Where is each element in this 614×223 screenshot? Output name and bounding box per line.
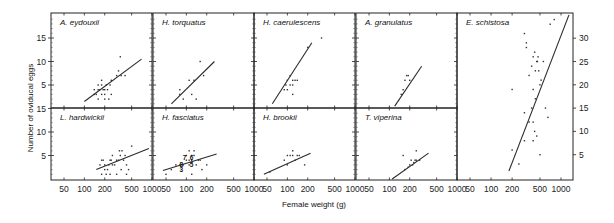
data-point — [107, 89, 108, 90]
y-axis-title: Number of oviducal eggs — [26, 64, 35, 153]
x-tick-label: 1000 — [552, 184, 571, 194]
data-point — [409, 164, 410, 165]
data-point — [196, 164, 197, 165]
data-point — [528, 75, 529, 76]
data-point — [101, 80, 102, 81]
data-point — [111, 94, 112, 95]
data-point — [292, 80, 293, 81]
panel-l-hardwickii: L. hardwickii501002005001000 — [51, 108, 162, 194]
x-tick-label: 100 — [280, 184, 294, 194]
data-point — [535, 70, 536, 71]
data-point — [104, 169, 105, 170]
regression-line — [395, 66, 422, 106]
point-count-annotation: 6 — [190, 154, 194, 161]
data-point — [289, 75, 290, 76]
regression-line — [96, 148, 149, 169]
x-tick-label: 100 — [77, 184, 91, 194]
data-point — [206, 164, 207, 165]
data-point — [103, 89, 104, 90]
y-tick-label-right: 5 — [579, 150, 584, 160]
data-point — [414, 160, 415, 161]
data-point — [116, 160, 117, 161]
point-count-annotation: 7 — [183, 154, 187, 161]
data-point — [201, 169, 202, 170]
data-point — [193, 80, 194, 81]
data-point — [404, 80, 405, 81]
data-point — [402, 155, 403, 156]
data-point — [108, 164, 109, 165]
data-point — [540, 79, 541, 80]
data-point — [292, 150, 293, 151]
data-point — [188, 80, 189, 81]
data-point — [116, 75, 117, 76]
left-y-axis: 5101551015 — [37, 33, 51, 161]
data-point — [526, 42, 527, 43]
data-point — [294, 80, 295, 81]
data-point — [175, 164, 176, 165]
data-point — [532, 121, 533, 122]
data-point — [97, 84, 98, 85]
data-point — [538, 70, 539, 71]
data-point — [118, 160, 119, 161]
x-tick-label: 50 — [364, 184, 374, 194]
data-point — [304, 164, 305, 165]
data-point — [109, 174, 110, 175]
data-point — [549, 24, 550, 25]
data-point — [199, 61, 200, 62]
data-point — [203, 75, 204, 76]
panels-group: A. eydouxiiH. torquatusH. caerulescensA.… — [51, 13, 573, 194]
data-point — [191, 174, 192, 175]
data-point — [539, 154, 540, 155]
panel-h-caerulescens: H. caerulescens — [254, 13, 355, 108]
panel-title: H. brookii — [263, 113, 297, 122]
panel-frame — [153, 13, 254, 108]
regression-line — [84, 59, 141, 101]
data-point — [292, 94, 293, 95]
panel-title: A. eydouxii — [59, 18, 99, 27]
data-point — [99, 89, 100, 90]
y-tick-label: 10 — [37, 127, 47, 137]
data-point — [109, 84, 110, 85]
data-point — [287, 155, 288, 156]
panel-frame — [356, 13, 457, 108]
data-point — [524, 112, 525, 113]
panel-title: A. granulatus — [364, 18, 412, 27]
panel-a-granulatus: A. granulatus — [356, 13, 457, 108]
panel-title: T. viperina — [365, 113, 402, 122]
y-tick-label-right: 30 — [579, 33, 589, 43]
data-point — [410, 160, 411, 161]
data-point — [416, 150, 417, 151]
data-point — [105, 174, 106, 175]
data-point — [532, 140, 533, 141]
data-point — [131, 145, 132, 146]
x-tick-label: 200 — [200, 184, 214, 194]
data-point — [537, 56, 538, 57]
data-point — [269, 171, 270, 172]
x-tick-label: 500 — [227, 184, 241, 194]
data-point — [416, 160, 417, 161]
x-tick-label: 200 — [301, 184, 315, 194]
data-point — [532, 89, 533, 90]
data-point — [188, 150, 189, 151]
data-point — [289, 84, 290, 85]
data-point — [297, 155, 298, 156]
data-point — [120, 75, 121, 76]
regression-line — [392, 153, 428, 179]
data-point — [292, 155, 293, 156]
data-point — [321, 37, 322, 38]
data-point — [518, 163, 519, 164]
y-tick-label: 15 — [37, 104, 47, 114]
data-point — [287, 89, 288, 90]
data-point — [534, 51, 535, 52]
panel-title: E. schistosa — [466, 18, 510, 27]
x-tick-label: 50 — [262, 184, 272, 194]
regression-line — [171, 62, 214, 104]
data-point — [413, 162, 414, 163]
x-tick-label: 1000 — [448, 184, 467, 194]
data-point — [404, 169, 405, 170]
panel-title: L. hardwickii — [60, 113, 104, 122]
data-point — [120, 155, 121, 156]
data-point — [292, 84, 293, 85]
data-point — [101, 160, 102, 161]
data-point — [119, 150, 120, 151]
